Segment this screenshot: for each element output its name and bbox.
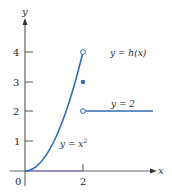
open-point-2-2 xyxy=(81,109,86,114)
parabola-curve xyxy=(25,52,83,171)
parabola-label: y = x2 xyxy=(59,137,87,149)
parabola-label-exp: 2 xyxy=(82,137,87,144)
x-axis-label: x xyxy=(158,165,164,176)
parabola-label-base: y = x xyxy=(59,139,83,149)
x-axis-arrow-icon xyxy=(150,169,157,174)
y-tick-label-3: 3 xyxy=(13,77,19,88)
function-label: y = h(x) xyxy=(109,48,147,58)
piecewise-function-graph: y x 0 2 4 3 2 1 y = h(x) y = 2 y = x2 xyxy=(0,0,172,195)
open-point-2-4 xyxy=(81,50,86,55)
y-tick-label-1: 1 xyxy=(14,136,20,147)
x-tick-label-2: 2 xyxy=(80,176,86,187)
y-tick-label-2: 2 xyxy=(13,106,19,117)
y-tick-label-4: 4 xyxy=(13,47,19,58)
filled-point-2-3 xyxy=(81,80,85,84)
y-axis-label: y xyxy=(21,6,28,17)
line-label: y = 2 xyxy=(110,99,135,109)
origin-label: 0 xyxy=(15,176,21,187)
y-axis-arrow-icon xyxy=(23,18,28,25)
